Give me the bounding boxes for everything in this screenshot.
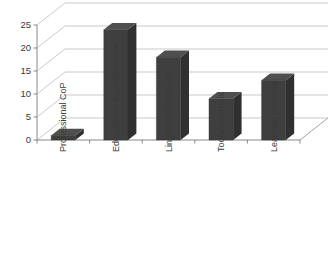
y-tick-label-0: 0 [26, 134, 31, 145]
y-tick-label-25: 25 [20, 19, 31, 30]
x-axis-label-3: Linguistics/language [164, 70, 174, 152]
x-axis-label-1: Professional CoP [58, 82, 68, 152]
bar-side-face-4 [233, 92, 241, 140]
floor-right-edge [300, 118, 328, 140]
x-axis-label-2: Educational theory/practice [111, 43, 121, 152]
chart-canvas: 2520151050Professional CoPEducational th… [0, 0, 332, 273]
x-axis-label-4: Tools/materials [216, 91, 226, 152]
gridline-25 [37, 3, 328, 25]
y-tick-label-20: 20 [20, 42, 31, 53]
x-axis-label-5: Learning contexts [269, 80, 279, 152]
y-tick-label-15: 15 [20, 65, 31, 76]
bar-chart-figure: 2520151050Professional CoPEducational th… [0, 0, 332, 273]
bar-side-face-3 [181, 51, 189, 140]
y-tick-label-5: 5 [26, 111, 31, 122]
y-tick-label-10: 10 [20, 88, 31, 99]
bar-side-face-2 [128, 23, 136, 140]
gridline-20 [37, 26, 328, 48]
bar-side-face-5 [286, 74, 294, 140]
